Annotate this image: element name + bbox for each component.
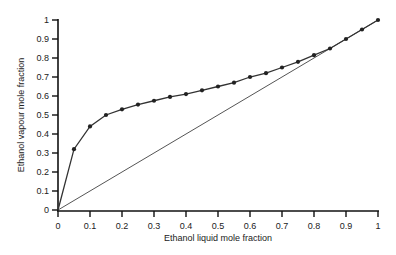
data-point-marker [312, 53, 316, 57]
data-point-marker [104, 113, 108, 117]
y-tick-label: 0.7 [36, 72, 49, 82]
y-axis-ticks: 00.10.20.30.40.50.60.70.80.91 [36, 15, 58, 215]
x-tick-label: 0.8 [308, 221, 321, 231]
data-point-marker [376, 18, 380, 22]
y-tick-label: 0.1 [36, 186, 49, 196]
x-tick-label: 0.7 [276, 221, 289, 231]
x-axis-ticks: 00.10.20.30.40.50.60.70.80.91 [55, 211, 380, 231]
x-tick-label: 0.2 [116, 221, 129, 231]
data-point-marker [136, 102, 140, 106]
data-point-marker [168, 95, 172, 99]
data-point-marker [360, 27, 364, 31]
x-tick-label: 0 [55, 221, 60, 231]
data-point-marker [344, 37, 348, 41]
y-tick-label: 0.9 [36, 34, 49, 44]
data-point-marker [296, 60, 300, 64]
y-tick-label: 0.2 [36, 167, 49, 177]
x-tick-label: 0.1 [84, 221, 97, 231]
y-tick-label: 1 [44, 15, 49, 25]
x-tick-label: 0.4 [180, 221, 193, 231]
data-point-marker [152, 99, 156, 103]
y-tick-label: 0.8 [36, 53, 49, 63]
data-point-marker [200, 88, 204, 92]
x-tick-label: 0.6 [244, 221, 257, 231]
vle-chart: 00.10.20.30.40.50.60.70.80.91 00.10.20.3… [0, 0, 396, 255]
data-point-marker [248, 75, 252, 79]
x-tick-label: 0.3 [148, 221, 161, 231]
x-tick-label: 0.9 [340, 221, 353, 231]
y-tick-label: 0.3 [36, 148, 49, 158]
y-axis-title: Ethanol vapour mole fraction [16, 58, 26, 173]
data-point-marker [264, 71, 268, 75]
x-axis-title: Ethanol liquid mole fraction [164, 233, 272, 243]
data-point-marker [184, 92, 188, 96]
data-point-marker [88, 124, 92, 128]
x-tick-label: 0.5 [212, 221, 225, 231]
data-point-marker [72, 147, 76, 151]
data-point-marker [280, 65, 284, 69]
y-tick-label: 0 [44, 205, 49, 215]
data-point-marker [216, 84, 220, 88]
y-tick-label: 0.4 [36, 129, 49, 139]
y-tick-label: 0.6 [36, 91, 49, 101]
x-tick-label: 1 [375, 221, 380, 231]
data-point-marker [232, 81, 236, 85]
data-point-marker [120, 107, 124, 111]
y-tick-label: 0.5 [36, 110, 49, 120]
data-point-marker [328, 46, 332, 50]
